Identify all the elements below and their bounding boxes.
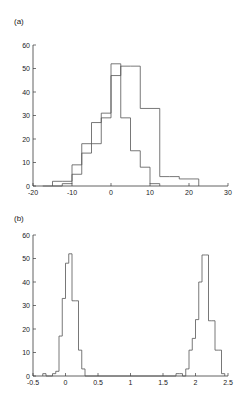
x-tick-label: 1	[129, 379, 133, 386]
histogram-outline	[43, 254, 225, 376]
x-tick-label: -10	[67, 189, 77, 196]
panel-b: (b) -0.500.511.522.50102030405060	[0, 204, 241, 407]
x-tick-label: 0	[64, 379, 68, 386]
x-tick-label: 0.5	[93, 379, 103, 386]
y-tick-label: 40	[22, 279, 30, 286]
histogram-outline	[53, 66, 199, 186]
x-tick-label: 20	[185, 189, 193, 196]
y-tick-label: 30	[22, 302, 30, 309]
y-tick-label: 10	[22, 349, 30, 356]
panel-b-plot: -0.500.511.522.50102030405060	[0, 204, 241, 407]
panel-a: (a) -20-1001020300102030405060	[0, 0, 241, 204]
histogram-outline	[43, 64, 160, 186]
y-tick-label: 30	[22, 112, 30, 119]
y-tick-label: 50	[22, 65, 30, 72]
y-tick-label: 50	[22, 255, 30, 262]
y-tick-label: 40	[22, 89, 30, 96]
x-tick-label: 1.5	[158, 379, 168, 386]
y-tick-label: 10	[22, 159, 30, 166]
panel-a-plot: -20-1001020300102030405060	[0, 0, 241, 204]
x-tick-label: 10	[146, 189, 154, 196]
y-tick-label: 20	[22, 136, 30, 143]
y-tick-label: 60	[22, 232, 30, 239]
histogram-figure: (a) -20-1001020300102030405060 (b) -0.50…	[0, 0, 241, 407]
x-tick-label: -0.5	[27, 379, 39, 386]
y-tick-label: 0	[26, 183, 30, 190]
y-tick-label: 20	[22, 326, 30, 333]
x-tick-label: 2.5	[223, 379, 233, 386]
x-tick-label: -20	[28, 189, 38, 196]
y-tick-label: 60	[22, 42, 30, 49]
x-tick-label: 2	[194, 379, 198, 386]
x-tick-label: 30	[224, 189, 232, 196]
x-tick-label: 0	[109, 189, 113, 196]
y-tick-label: 0	[26, 373, 30, 380]
